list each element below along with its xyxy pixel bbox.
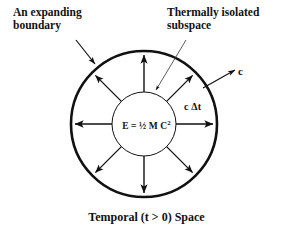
spoke-arrow-315deg [167,147,193,173]
energy-equation-exponent: 2 [167,119,171,126]
leader-line-speed-of-light [203,70,235,88]
label-energy-equation: E = ½ M C2 [0,119,293,132]
spoke-arrow-135deg [95,75,121,101]
label-thermally-isolated-subspace: Thermally isolated subspace [167,6,291,32]
spoke-arrow-45deg [167,75,193,101]
spoke-arrow-225deg [95,147,121,173]
label-speed-of-light: c [238,65,243,77]
label-caption-temporal-space: Temporal (t > 0) Space [0,211,293,224]
label-distance-c-delta-t: c Δt [184,101,201,112]
label-expanding-boundary: An expanding boundary [13,6,133,32]
leader-line-expanding-boundary [76,40,95,64]
leader-line-thermally-isolated [156,40,186,90]
energy-equation-text: E = ½ M C [122,121,167,131]
